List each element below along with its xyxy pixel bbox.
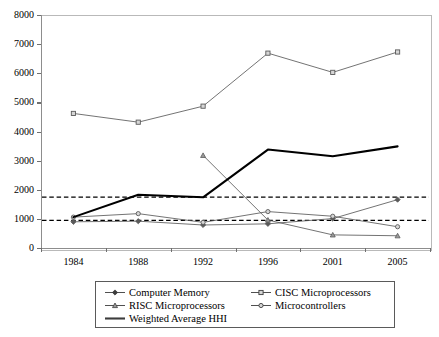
legend-item-microcontrollers[interactable]: Microcontrollers [250,300,388,311]
data-point-diamond [136,219,141,224]
data-point-diamond [112,290,117,295]
series-line-computer-memory [73,200,397,225]
chart-legend: Computer MemoryCISC MicroprocessorsRISC … [95,281,395,328]
legend-swatch-diamond [104,287,126,298]
series-line-weighted-average-hhi [73,146,397,217]
legend-swatch-triangle [104,300,126,311]
data-point-circle [136,212,140,216]
series-line-risc-microprocessors [203,155,397,235]
legend-item-risc-microprocessors[interactable]: RISC Microprocessors [104,300,250,311]
data-point-square [395,50,399,54]
legend-item-label: Computer Memory [129,287,210,298]
legend-item-weighted-average-hhi[interactable]: Weighted Average HHI [104,313,252,324]
legend-row: Weighted Average HHI [104,312,388,325]
data-point-square [331,70,335,74]
legend-swatch-none [104,313,126,324]
legend-item-label: Weighted Average HHI [129,313,227,324]
legend-item-cisc-microprocessors[interactable]: CISC Microprocessors [250,287,388,298]
data-point-square [259,290,263,294]
data-point-circle [201,220,205,224]
data-point-circle [259,303,263,307]
legend-rows: Computer MemoryCISC MicroprocessorsRISC … [96,282,394,327]
chart-container: 010002000300040005000600070008000 198419… [0,0,439,337]
data-point-circle [331,214,335,218]
legend-item-label: Microcontrollers [275,300,346,311]
legend-swatch-circle [250,300,272,311]
data-point-triangle [201,153,206,158]
legend-row: RISC MicroprocessorsMicrocontrollers [104,299,388,312]
data-point-circle [395,225,399,229]
legend-item-label: CISC Microprocessors [275,287,371,298]
data-point-square [136,120,140,124]
legend-item-computer-memory[interactable]: Computer Memory [104,287,250,298]
legend-item-label: RISC Microprocessors [129,300,225,311]
data-point-square [266,51,270,55]
series-line-cisc-microprocessors [73,52,397,122]
data-point-square [201,104,205,108]
legend-swatch-square [250,287,272,298]
data-point-diamond [395,197,400,202]
legend-row: Computer MemoryCISC Microprocessors [104,286,388,299]
data-point-circle [266,209,270,213]
data-point-square [71,111,75,115]
